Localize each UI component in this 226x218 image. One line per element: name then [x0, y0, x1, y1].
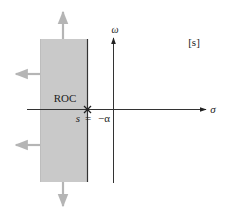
- roc-label: ROC: [54, 92, 77, 104]
- pole-var-label: s: [76, 112, 80, 124]
- s-plane-label: [s]: [188, 36, 200, 48]
- sigma-axis-label: σ: [210, 103, 216, 115]
- roc-region: [40, 39, 88, 182]
- pole-equals-sign: =: [85, 112, 91, 124]
- s-plane-diagram: ROC s = −α σ ω [s]: [0, 0, 226, 218]
- omega-axis-label: ω: [111, 24, 118, 35]
- pole-value-label: −α: [98, 112, 110, 124]
- roc-fill: [40, 39, 88, 182]
